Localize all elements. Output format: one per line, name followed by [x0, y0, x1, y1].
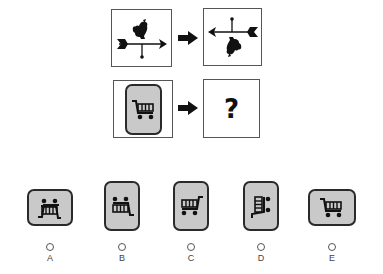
option-d-label: D	[255, 253, 267, 263]
example-target-frame	[203, 8, 262, 66]
weathervane-rooster-rotated-180-icon	[204, 10, 261, 65]
example-source-frame	[111, 9, 172, 67]
shopping-cart-rotated-90-icon	[250, 193, 272, 219]
right-arrow-icon	[178, 31, 198, 45]
option-c-radio[interactable]	[187, 243, 195, 251]
option-a-label: A	[44, 253, 56, 263]
question-target-frame: ?	[203, 79, 260, 138]
option-b-radio[interactable]	[118, 243, 126, 251]
shopping-cart-icon	[319, 197, 345, 219]
weathervane-rooster-icon	[113, 11, 171, 66]
option-e-radio[interactable]	[328, 243, 336, 251]
unknown-answer-mark: ?	[204, 80, 259, 137]
cart-tile	[125, 84, 162, 135]
option-b-tile[interactable]	[104, 181, 140, 231]
shopping-cart-flipped-vertical-icon	[109, 195, 135, 217]
option-d-tile[interactable]	[243, 181, 279, 231]
question-source-frame	[113, 80, 173, 138]
shopping-cart-mirrored-icon	[178, 195, 204, 217]
option-c-tile[interactable]	[173, 181, 209, 231]
option-a-radio[interactable]	[46, 243, 54, 251]
option-e-label: E	[326, 253, 338, 263]
option-d-radio[interactable]	[257, 243, 265, 251]
option-a-tile[interactable]	[27, 189, 73, 226]
right-arrow-icon	[178, 101, 198, 115]
shopping-cart-icon	[131, 99, 157, 121]
option-e-tile[interactable]	[308, 189, 356, 226]
option-c-label: C	[185, 253, 197, 263]
option-b-label: B	[116, 253, 128, 263]
shopping-cart-rotated-icon	[37, 197, 63, 219]
